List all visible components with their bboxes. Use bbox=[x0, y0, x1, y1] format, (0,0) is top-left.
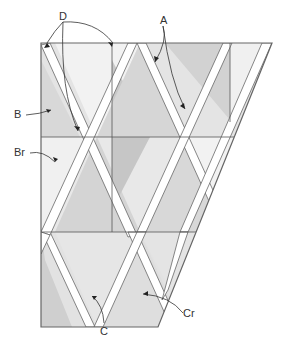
label-cr: Cr bbox=[183, 307, 195, 319]
arrow-d-1 bbox=[47, 22, 63, 43]
label-br: Br bbox=[14, 146, 25, 158]
arrow-d-3 bbox=[63, 22, 113, 43]
label-b: B bbox=[14, 108, 21, 120]
label-d: D bbox=[59, 10, 67, 22]
label-c: C bbox=[100, 325, 108, 337]
quilt-body bbox=[41, 43, 281, 327]
quilt-diagram bbox=[0, 0, 288, 349]
label-a: A bbox=[160, 14, 167, 26]
